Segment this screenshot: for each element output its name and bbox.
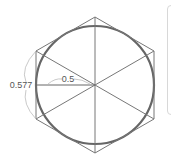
- inradius-label: 0.5: [62, 74, 75, 84]
- hexagon-circle-diagram: 0.5 0.577: [0, 0, 171, 157]
- circumradius-arc-top: [24, 51, 36, 82]
- circumradius-arc-bottom: [25, 90, 36, 119]
- side-panel-edge: [167, 5, 171, 115]
- inradius-arc: [48, 79, 62, 84]
- inradius-arc-right: [74, 79, 90, 84]
- circumradius-label: 0.577: [10, 80, 33, 90]
